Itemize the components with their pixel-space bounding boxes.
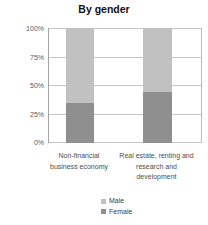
- y-tick-label-0: 0%: [34, 139, 44, 147]
- y-axis: 0%25%50%75%100%: [0, 28, 44, 143]
- y-tick-label-25: 25%: [30, 111, 44, 119]
- chart-title: By gender: [0, 3, 208, 15]
- x-label-real-estate: Real estate, renting and research and de…: [119, 151, 194, 183]
- x-label-non-financial: Non-financial business economy: [47, 151, 111, 172]
- legend-item-female: Female: [101, 207, 132, 218]
- legend: Male Female: [101, 196, 132, 217]
- gender-stacked-bar-chart: By gender 0%25%50%75%100% Non-financial …: [0, 0, 208, 225]
- legend-swatch-male-icon: [101, 199, 106, 204]
- bar-segment-female: [66, 103, 94, 143]
- bar-real-estate: [143, 28, 172, 143]
- bar-segment-male: [143, 28, 172, 92]
- bar-non-financial: [66, 28, 94, 143]
- y-tick-label-75: 75%: [30, 54, 44, 62]
- legend-label-female: Female: [109, 207, 132, 218]
- y-tick-label-100: 100%: [26, 25, 44, 33]
- bar-segment-male: [66, 28, 94, 103]
- legend-label-male: Male: [109, 196, 124, 207]
- legend-swatch-female-icon: [101, 209, 106, 214]
- y-tick-label-50: 50%: [30, 82, 44, 90]
- plot-area: [48, 28, 202, 143]
- bar-segment-female: [143, 92, 172, 143]
- legend-item-male: Male: [101, 196, 132, 207]
